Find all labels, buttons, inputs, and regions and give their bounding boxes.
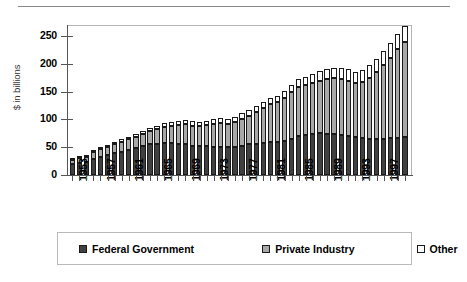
x-tick-mark [100, 175, 101, 181]
bar-segment-federal [402, 137, 407, 175]
bar-1969 [183, 120, 188, 175]
bar-segment-other [239, 113, 244, 119]
x-tick-mark [362, 175, 363, 181]
y-tick-label: 100 [19, 112, 57, 124]
x-tick-mark [320, 175, 321, 181]
bar-segment-private [225, 124, 230, 147]
x-tick-mark [270, 175, 271, 181]
bar-segment-federal [70, 164, 75, 175]
bar-segment-other [176, 121, 181, 125]
bar-segment-other [126, 137, 131, 139]
legend-item-other: Other [417, 243, 458, 255]
x-tick-mark [171, 175, 172, 181]
bar-segment-private [147, 131, 152, 144]
bar-segment-private [169, 126, 174, 144]
bar-segment-private [317, 81, 322, 134]
bar-segment-private [310, 83, 315, 134]
bar-segment-private [119, 142, 124, 152]
bar-segment-private [112, 144, 117, 153]
bar-segment-other [367, 65, 372, 78]
bar-1992 [346, 69, 351, 175]
bar-segment-other [339, 68, 344, 79]
x-tick-mark [391, 175, 392, 181]
x-tick-mark [79, 175, 80, 181]
x-tick-mark [143, 175, 144, 181]
bar-segment-private [133, 137, 138, 148]
x-tick-mark [200, 175, 201, 181]
x-tick-mark [157, 175, 158, 181]
bar-segment-other [346, 69, 351, 81]
bar-segment-federal [324, 134, 329, 175]
bar-segment-other [303, 77, 308, 85]
x-tick-mark [207, 175, 208, 181]
bar-segment-other [289, 85, 294, 92]
x-tick-mark [235, 175, 236, 181]
legend-item-federal-government: Federal Government [79, 243, 194, 255]
bar-1985 [296, 79, 301, 175]
x-tick-mark [214, 175, 215, 181]
bar-segment-private [218, 123, 223, 147]
legend-label-private: Private Industry [275, 243, 354, 255]
top-divider-rule [18, 6, 450, 7]
bar-segment-private [303, 85, 308, 135]
legend-label-other: Other [430, 243, 458, 255]
bar-segment-private [268, 104, 273, 142]
bar-1953 [70, 159, 75, 175]
bar-segment-other [374, 59, 379, 72]
bar-1998 [388, 43, 393, 175]
legend-item-private-industry: Private Industry [262, 243, 354, 255]
bar-segment-private [395, 49, 400, 137]
bar-segment-federal [211, 147, 216, 175]
bar-segment-private [381, 65, 386, 139]
x-tick-mark [122, 175, 123, 181]
bar-segment-other [211, 119, 216, 123]
legend-swatch-icon-other [417, 245, 425, 253]
bar-segment-private [246, 116, 251, 145]
bar-segment-private [91, 152, 96, 159]
bar-1996 [374, 59, 379, 175]
bar-segment-federal [289, 139, 294, 175]
bar-segment-private [360, 82, 365, 138]
bar-segment-private [176, 125, 181, 144]
bar-segment-other [190, 121, 195, 125]
bar-segment-other [197, 122, 202, 126]
x-tick-mark [292, 175, 293, 181]
bar-segment-other [254, 106, 259, 112]
x-tick-mark [398, 175, 399, 181]
x-tick-mark [129, 175, 130, 181]
bar-segment-federal [176, 144, 181, 175]
bar-segment-private [232, 122, 237, 147]
chart-legend: Federal Government Private Industry Othe… [57, 232, 412, 265]
bar-segment-private [154, 129, 159, 144]
bar-segment-private [275, 102, 280, 141]
bar-segment-federal [239, 146, 244, 175]
bar-segment-other [105, 145, 110, 147]
bar-segment-other [388, 43, 393, 57]
bar-segment-private [331, 78, 336, 134]
x-tick-mark [164, 175, 165, 181]
x-tick-mark [341, 175, 342, 181]
bar-segment-private [140, 134, 145, 146]
bar-segment-private [324, 79, 329, 134]
bar-segment-private [261, 108, 266, 142]
bar-segment-other [402, 26, 407, 42]
bar-segment-other [154, 126, 159, 129]
x-tick-mark [150, 175, 151, 181]
x-tick-mark [93, 175, 94, 181]
bar-segment-other [112, 142, 117, 144]
x-tick-mark [277, 175, 278, 181]
bar-segment-private [402, 42, 407, 138]
bar-segment-federal [126, 150, 131, 175]
bar-segment-private [70, 160, 75, 164]
bar-1980 [261, 102, 266, 175]
bar-1981 [268, 98, 273, 175]
bar-segment-private [183, 124, 188, 144]
legend-label-federal: Federal Government [92, 243, 194, 255]
bar-1976 [232, 117, 237, 175]
y-tick-label: 0 [19, 168, 57, 180]
x-tick-mark [384, 175, 385, 181]
bar-segment-other [331, 68, 336, 79]
bar-segment-private [374, 72, 379, 139]
bar-1993 [353, 72, 358, 175]
bar-segment-other [360, 70, 365, 82]
